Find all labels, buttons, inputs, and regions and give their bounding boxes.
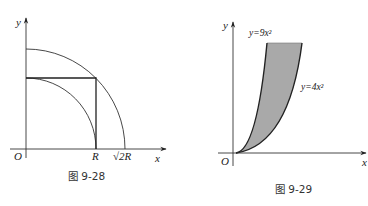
origin-label: O [14, 150, 22, 162]
curve-4x2-label: y=4x² [300, 82, 324, 92]
r-tick-label: R [91, 150, 99, 162]
figure-caption: 图 9-29 [275, 183, 312, 195]
curve-9x2-label: y=9x² [248, 28, 272, 38]
figure-9-29: y y=9x² y=4x² O x 图 9-29 [218, 19, 367, 195]
y-axis-label: y [222, 19, 228, 31]
figure-9-28: y O R √2R x 图 9-28 [10, 16, 166, 182]
diagram-canvas: y O R √2R x 图 9-28 y y=9x² y=4x² O x 图 9… [0, 0, 368, 206]
sqrt2r-tick-label: √2R [113, 150, 132, 162]
square [26, 78, 96, 149]
shaded-region [236, 43, 302, 153]
x-axis-label: x [154, 152, 160, 164]
x-axis-label: x [361, 156, 367, 168]
y-axis-label: y [15, 16, 21, 28]
inner-quarter-circle [26, 78, 96, 149]
origin-label: O [221, 155, 229, 167]
figure-caption: 图 9-28 [68, 170, 105, 182]
